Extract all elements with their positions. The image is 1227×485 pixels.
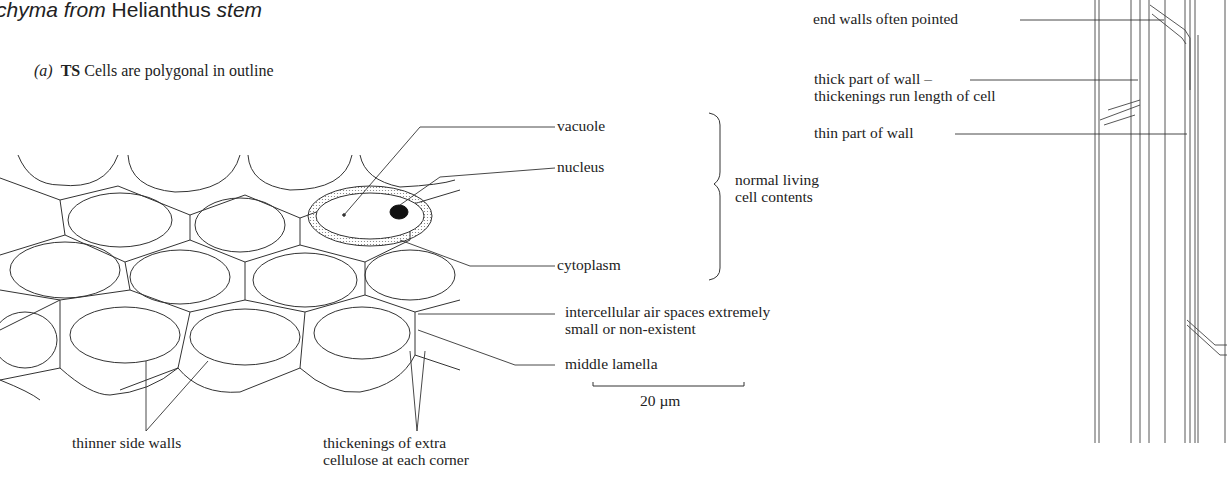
- label-thinner-side-walls: thinner side walls: [72, 434, 181, 451]
- label-end-walls: end walls often pointed: [813, 10, 958, 27]
- label-nucleus: nucleus: [557, 158, 604, 175]
- leader-lines: [146, 127, 555, 431]
- label-cytoplasm: cytoplasm: [557, 256, 621, 273]
- label-normal-living: normal living: [735, 171, 819, 188]
- label-thin-wall: thin part of wall: [814, 124, 913, 141]
- diagram-drawing: [0, 0, 1227, 485]
- living-cell: [308, 186, 432, 246]
- label-thick-wall-2: thickenings run length of cell: [814, 87, 996, 104]
- scale-bar-label: 20 µm: [640, 392, 680, 409]
- label-vacuole: vacuole: [557, 117, 605, 134]
- ls-cell-walls: [1095, 0, 1227, 443]
- label-thick-wall-1: thick part of wall –: [814, 70, 932, 87]
- label-thickenings-2: cellulose at each corner: [323, 451, 469, 468]
- label-thickenings-1: thickenings of extra: [323, 434, 446, 451]
- label-air-spaces-1: intercellular air spaces extremely: [565, 303, 770, 320]
- scale-bar: [593, 382, 744, 386]
- label-cell-contents: cell contents: [735, 188, 813, 205]
- label-middle-lamella: middle lamella: [565, 355, 658, 372]
- ls-leader-lines: [955, 20, 1187, 134]
- brace: [709, 113, 720, 280]
- label-air-spaces-2: small or non-existent: [565, 320, 696, 337]
